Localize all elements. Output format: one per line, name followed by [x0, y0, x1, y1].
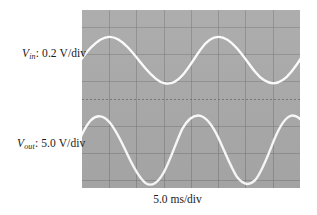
oscilloscope-screen [82, 10, 300, 188]
channel-label-vin: Vin: 0.2 V/div [22, 47, 86, 63]
timebase-caption: 5.0 ms/div [0, 193, 317, 205]
waveform-traces [82, 10, 300, 188]
trace-vin [82, 37, 300, 84]
channel-label-vout: Vout: 5.0 V/div [17, 137, 85, 153]
oscilloscope-figure: Vin: 0.2 V/div Vout: 5.0 V/div 5.0 ms/di… [0, 0, 317, 215]
trace-vout [82, 116, 300, 185]
vin-subscript: in [29, 52, 36, 61]
vout-subscript: out [24, 142, 35, 151]
vin-value: 0.2 V/div [42, 47, 86, 59]
vout-value: 5.0 V/div [41, 137, 85, 149]
